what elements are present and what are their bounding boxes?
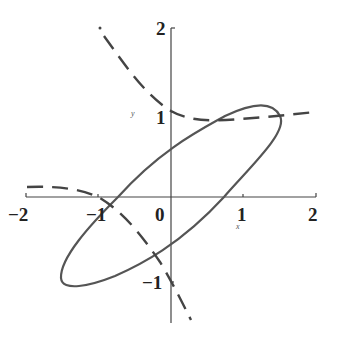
x-axis-label: x xyxy=(235,222,240,231)
y-tick-2: 2 xyxy=(156,18,166,39)
y-tick-1: 1 xyxy=(156,107,166,128)
curve-dot-marker xyxy=(99,27,102,30)
x-tick-neg2: −2 xyxy=(8,204,28,225)
x-tick-neg1: −1 xyxy=(86,204,106,225)
x-tick-2: 2 xyxy=(308,204,318,225)
dashed-curve-upper xyxy=(104,36,316,120)
plot-area: −2 −1 0 1 2 2 1 −1 y x xyxy=(0,0,337,341)
y-tick-neg1: −1 xyxy=(142,272,162,293)
y-axis-label: y xyxy=(130,109,135,118)
x-tick-0: 0 xyxy=(155,204,165,225)
y-axis xyxy=(171,28,175,323)
